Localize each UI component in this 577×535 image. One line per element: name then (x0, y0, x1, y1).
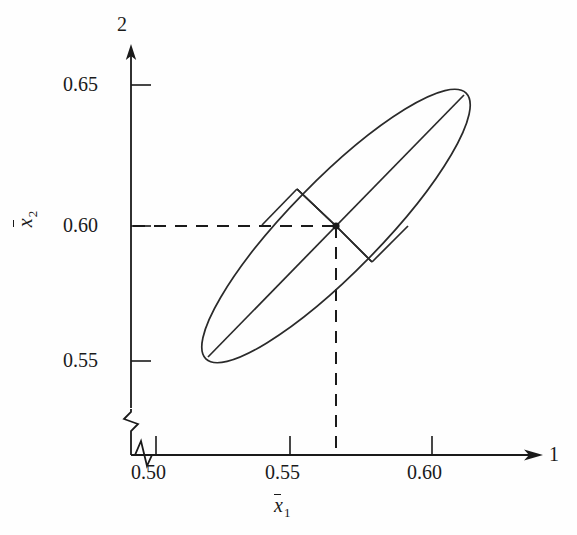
x-axis-end-label: 1 (549, 444, 559, 464)
y-tick-label-0.60: 0.60 (63, 215, 98, 235)
y-tick-label-0.55: 0.55 (63, 350, 98, 370)
y-axis (124, 44, 151, 455)
x-tick-label-0.50: 0.50 (131, 462, 166, 482)
center-point-marker (332, 222, 339, 229)
figure-container: 2 0.65 0.60 0.55 x2 0.50 0.55 0.60 1 x1 (0, 0, 577, 535)
y-tick-label-0.65: 0.65 (63, 74, 98, 94)
x-axis-title: x1 (274, 495, 290, 519)
parallelogram-edge-a (297, 189, 336, 226)
y-axis-break-icon (124, 409, 138, 455)
y-axis-title-subscript: 2 (25, 211, 40, 219)
x-tick-label-0.55: 0.55 (265, 462, 300, 482)
guide-lines (133, 226, 336, 452)
minor-axis-half-lower (336, 226, 372, 262)
x-axis-title-base: x (274, 495, 283, 515)
y-axis-title-base: x (14, 218, 37, 227)
square-edge-lower-right (372, 226, 408, 262)
x-tick-label-0.60: 0.60 (407, 462, 442, 482)
y-axis-title: x2 (14, 199, 54, 239)
x-axis-title-subscript: 1 (283, 505, 291, 520)
y-axis-end-label: 2 (117, 14, 127, 34)
